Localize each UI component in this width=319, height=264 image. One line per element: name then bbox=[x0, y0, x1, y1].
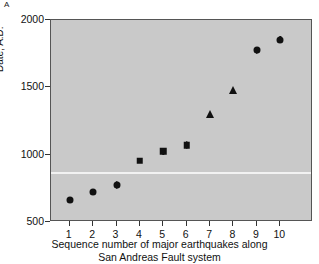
figure: A Date, A.D. 500100015002000 12345678910… bbox=[0, 0, 319, 264]
marker-square-icon bbox=[183, 142, 190, 149]
data-point bbox=[203, 107, 217, 121]
y-tick-label: 1000 bbox=[0, 148, 44, 160]
data-point bbox=[133, 154, 147, 168]
x-tick-mark bbox=[232, 221, 233, 226]
marker-triangle-icon bbox=[229, 86, 237, 94]
y-tick-label: 500 bbox=[0, 215, 44, 227]
x-tick-mark bbox=[116, 221, 117, 226]
marker-square-icon bbox=[137, 157, 144, 164]
data-point bbox=[63, 193, 77, 207]
data-point bbox=[86, 185, 100, 199]
plot-area bbox=[50, 19, 312, 221]
data-point bbox=[226, 83, 240, 97]
marker-circle-icon bbox=[66, 196, 73, 203]
x-axis-label: Sequence number of major earthquakes alo… bbox=[0, 238, 319, 263]
marker-circle-icon bbox=[113, 181, 120, 188]
marker-circle-icon bbox=[90, 189, 97, 196]
x-tick-mark bbox=[279, 221, 280, 226]
data-point bbox=[180, 138, 194, 152]
reference-line bbox=[51, 172, 311, 174]
x-tick-mark bbox=[69, 221, 70, 226]
y-tick-label: 2000 bbox=[0, 13, 44, 25]
x-axis-label-line2: San Andreas Fault system bbox=[0, 251, 319, 264]
x-tick-mark bbox=[209, 221, 210, 226]
x-tick-mark bbox=[92, 221, 93, 226]
marker-triangle-icon bbox=[206, 110, 214, 118]
marker-square-icon bbox=[160, 148, 167, 155]
data-point bbox=[110, 178, 124, 192]
y-tick-mark bbox=[45, 221, 50, 222]
data-point bbox=[273, 33, 287, 47]
x-tick-mark bbox=[162, 221, 163, 226]
data-point bbox=[250, 43, 264, 57]
marker-circle-icon bbox=[277, 36, 284, 43]
x-tick-mark bbox=[186, 221, 187, 226]
data-point bbox=[156, 144, 170, 158]
marker-circle-icon bbox=[253, 47, 260, 54]
y-axis-label: Date, A.D. bbox=[0, 0, 5, 72]
x-tick-mark bbox=[139, 221, 140, 226]
x-axis-label-line1: Sequence number of major earthquakes alo… bbox=[0, 238, 319, 251]
y-tick-label: 1500 bbox=[0, 80, 44, 92]
x-tick-mark bbox=[256, 221, 257, 226]
